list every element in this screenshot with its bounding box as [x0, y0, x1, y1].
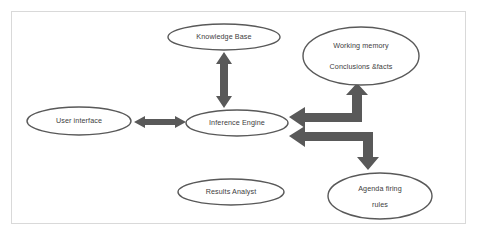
connector-knowledge-base-inference-engine — [216, 52, 232, 108]
connector-inference-engine-agenda-firing-rules — [289, 126, 379, 170]
node-working-memory[interactable]: Working memory Conclusions &facts — [303, 27, 419, 85]
node-agenda-firing-rules[interactable]: Agenda firing rules — [328, 173, 432, 219]
double-arrow-vertical-icon — [216, 52, 232, 108]
agenda-firing-rules-label-line-1: Agenda firing — [358, 184, 402, 193]
connector-user-interface-inference-engine — [134, 116, 186, 128]
node-results-analyst[interactable]: Results Analyst — [178, 179, 284, 205]
node-knowledge-base[interactable]: Knowledge Base — [168, 24, 280, 50]
node-user-interface[interactable]: User interface — [27, 107, 131, 135]
agenda-firing-rules-label-line-2: rules — [372, 200, 388, 209]
diagram-canvas: Knowledge Base Working memory Conclusion… — [0, 0, 479, 238]
results-analyst-label: Results Analyst — [206, 187, 257, 196]
working-memory-label-line-1: Working memory — [333, 41, 389, 50]
elbow-arrow-down-left-icon — [289, 126, 379, 170]
elbow-arrow-up-left-icon — [289, 83, 368, 128]
user-interface-label: User interface — [56, 116, 102, 125]
working-memory-label-line-2: Conclusions &facts — [330, 62, 393, 71]
agenda-firing-rules-ellipse[interactable] — [328, 173, 432, 219]
knowledge-base-label: Knowledge Base — [196, 32, 251, 41]
inference-engine-label: Inference Engine — [209, 118, 265, 127]
connector-inference-engine-working-memory — [289, 83, 368, 128]
double-arrow-horizontal-icon — [134, 116, 186, 128]
diagram-graphics: Knowledge Base Working memory Conclusion… — [0, 0, 479, 238]
working-memory-ellipse[interactable] — [303, 27, 419, 85]
node-inference-engine[interactable]: Inference Engine — [186, 110, 288, 136]
